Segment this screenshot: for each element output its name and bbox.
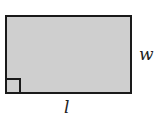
- length-label: l: [64, 99, 69, 116]
- rectangle: [5, 15, 132, 94]
- right-angle-marker: [7, 78, 21, 92]
- width-label: w: [139, 46, 154, 63]
